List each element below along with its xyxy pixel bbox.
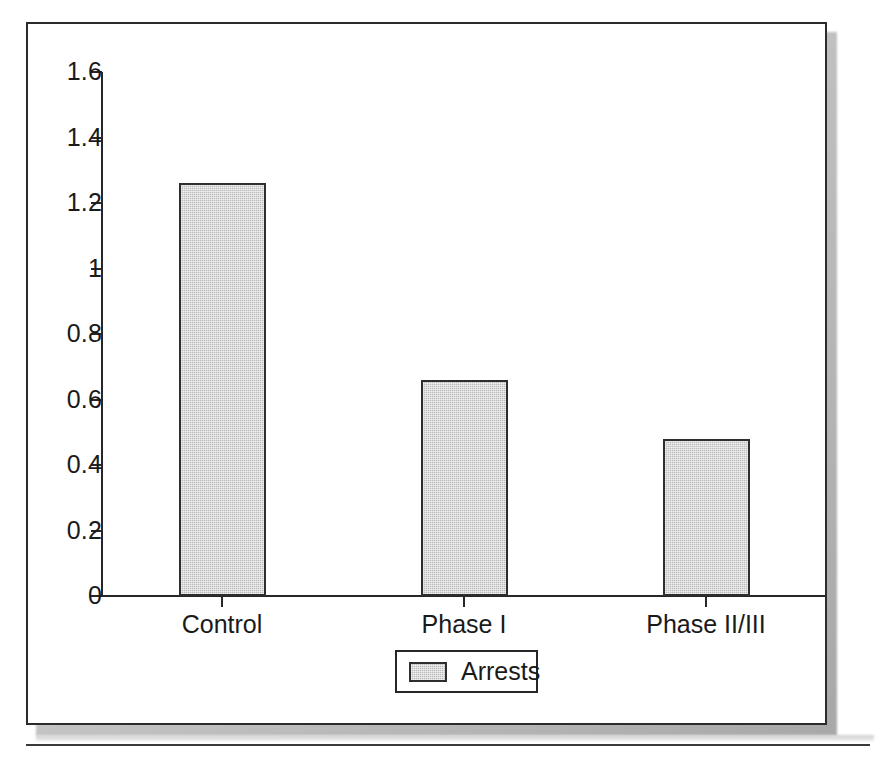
x-tick-mark xyxy=(463,597,465,607)
bar-phase-ii-iii xyxy=(663,439,750,596)
y-tick-label: 0.8 xyxy=(40,321,102,346)
chart-legend: Arrests xyxy=(395,650,538,693)
y-tick-label: 1 xyxy=(40,256,102,281)
bottom-rule-shadow xyxy=(36,735,874,741)
chart-page: 1.61.41.210.80.60.40.20 ControlPhase IPh… xyxy=(0,0,881,757)
x-tick-label: Control xyxy=(182,612,263,637)
y-tick-label: 1.4 xyxy=(40,125,102,150)
figure-frame: 1.61.41.210.80.60.40.20 ControlPhase IPh… xyxy=(26,22,827,725)
bottom-rule xyxy=(26,744,870,746)
y-tick-label: 0 xyxy=(40,583,102,608)
y-tick-label: 1.6 xyxy=(40,59,102,84)
y-tick-label: 0.2 xyxy=(40,518,102,543)
bar-phase-i xyxy=(421,380,508,596)
y-tick-label: 0.4 xyxy=(40,452,102,477)
x-tick-mark xyxy=(221,597,223,607)
x-tick-label: Phase II/III xyxy=(646,612,766,637)
x-tick-mark xyxy=(705,597,707,607)
y-tick-label: 0.6 xyxy=(40,387,102,412)
plot-area: 1.61.41.210.80.60.40.20 ControlPhase IPh… xyxy=(28,24,829,727)
x-tick-label: Phase I xyxy=(422,612,507,637)
legend-swatch-arrests xyxy=(409,662,447,682)
bar-control xyxy=(179,183,266,596)
legend-label-arrests: Arrests xyxy=(461,659,540,684)
y-tick-label: 1.2 xyxy=(40,190,102,215)
